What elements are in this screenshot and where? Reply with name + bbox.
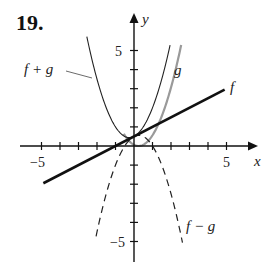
- label-f-plus-g: f + g: [24, 61, 54, 77]
- x-axis-arrow-icon: [248, 142, 258, 151]
- x-tick-label-5: 5: [223, 155, 230, 170]
- x-tick-label-neg5: −5: [30, 155, 45, 170]
- x-axis-label: x: [253, 153, 261, 169]
- graph: x y −5 5 5 −5 f + g g f f − g: [0, 0, 263, 265]
- series-g: [124, 45, 181, 146]
- label-f: f: [230, 79, 236, 95]
- y-axis-label: y: [140, 11, 149, 27]
- label-g: g: [174, 62, 182, 78]
- y-axis-arrow-icon: [130, 13, 139, 23]
- series-f-plus-g: [87, 37, 170, 138]
- f-plus-g-leader-line: [66, 71, 92, 78]
- series-f-minus-g: [96, 135, 182, 242]
- y-tick-label-5: 5: [115, 44, 122, 59]
- label-f-minus-g: f − g: [186, 218, 216, 234]
- axes: [20, 13, 258, 262]
- y-tick-label-neg5: −5: [110, 235, 125, 250]
